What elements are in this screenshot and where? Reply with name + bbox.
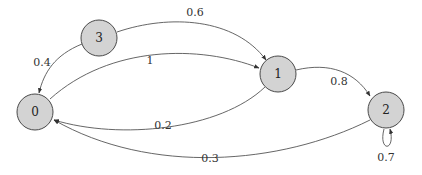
node-1: 1 — [260, 56, 296, 92]
svg-text:0.7: 0.7 — [377, 151, 395, 164]
svg-text:0.4: 0.4 — [33, 56, 51, 69]
svg-text:2: 2 — [382, 103, 390, 117]
svg-text:0: 0 — [31, 105, 39, 119]
edge-2-to-0: 0.3 — [54, 120, 370, 165]
edge-1-to-2: 0.8 — [296, 67, 370, 96]
svg-text:1: 1 — [147, 54, 154, 67]
markov-chain-diagram: 0.6 0.4 1 0.8 0.2 0.3 0.7 3 1 0 2 — [0, 0, 422, 175]
node-3: 3 — [81, 20, 117, 56]
svg-text:0.2: 0.2 — [154, 119, 172, 132]
node-2: 2 — [368, 92, 404, 128]
svg-text:0.3: 0.3 — [201, 152, 219, 165]
edge-1-to-0: 0.2 — [54, 87, 265, 132]
edge-0-to-1: 1 — [50, 53, 259, 99]
svg-text:3: 3 — [95, 31, 103, 45]
svg-text:0.6: 0.6 — [186, 6, 204, 19]
edge-3-to-1: 0.6 — [117, 6, 266, 60]
node-0: 0 — [17, 94, 53, 130]
svg-text:0.8: 0.8 — [330, 75, 348, 88]
edge-2-self-loop: 0.7 — [377, 129, 395, 164]
svg-text:1: 1 — [274, 67, 282, 81]
edge-3-to-0: 0.4 — [33, 44, 82, 93]
